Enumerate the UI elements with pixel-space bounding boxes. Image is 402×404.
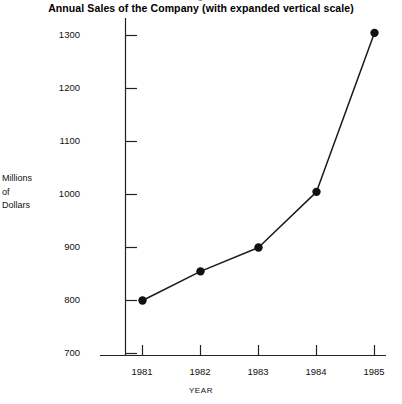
series-markers: [138, 29, 378, 305]
plot-area: [0, 0, 402, 404]
data-point-1981: [138, 296, 146, 304]
data-point-1983: [254, 243, 262, 251]
data-point-1982: [196, 267, 204, 275]
data-point-1985: [370, 29, 378, 37]
y-axis-ticks: [126, 36, 138, 354]
chart-container: Annual Sales of the Company (with expand…: [0, 0, 402, 404]
x-axis-ticks: [143, 345, 375, 356]
series-line-annual-sales: [143, 33, 375, 301]
data-point-1984: [312, 188, 320, 196]
